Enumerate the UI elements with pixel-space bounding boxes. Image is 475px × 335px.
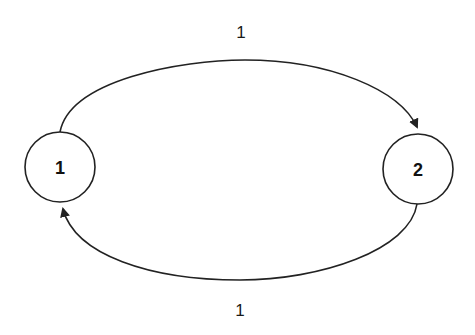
node-2-label: 2 — [413, 161, 423, 179]
edge-1-to-2 — [60, 60, 417, 132]
state-diagram — [0, 0, 475, 335]
edge-2-to-1-weight: 1 — [235, 302, 244, 319]
edge-2-to-1 — [63, 204, 417, 280]
edge-1-to-2-weight: 1 — [236, 24, 245, 41]
node-1-label: 1 — [55, 159, 65, 177]
